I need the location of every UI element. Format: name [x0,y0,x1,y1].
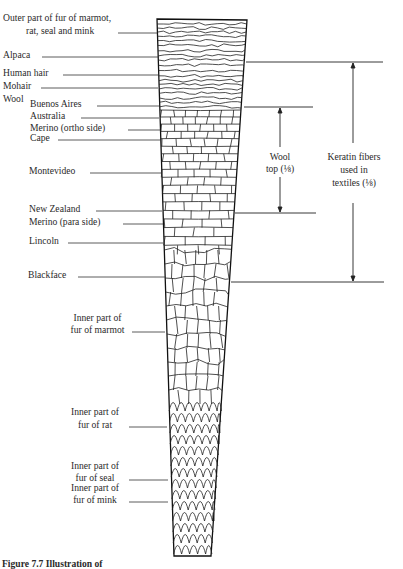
label-new-zealand: New Zealand [29,203,80,214]
label-mohair: Mohair [3,80,31,91]
label-inner-marmot-line2: fur of marmot [60,324,135,335]
label-blackface: Blackface [28,269,66,280]
figure-caption: Figure 7.7 Illustration of [2,558,103,569]
label-cape: Cape [30,132,50,143]
label-australia: Australia [30,110,65,121]
label-wool: Wool [3,93,24,104]
bracket-keratin-line3: textiles (⅛) [318,177,390,188]
label-inner-marmot-line1: Inner part of [60,312,135,323]
label-inner-rat-line2: fur of rat [60,419,130,430]
label-inner-mink-line1: Inner part of [60,482,130,493]
label-montevideo: Montevideo [29,165,75,176]
label-alpaca: Alpaca [3,49,30,60]
bracket-wool-top-line1: Wool [258,151,302,162]
label-outer-fur-line2: rat, seal and mink [26,25,94,36]
label-outer-fur-line1: Outer part of fur of marmot, [3,12,111,23]
bracket-keratin-line2: used in [318,164,390,175]
label-human-hair: Human hair [3,67,49,78]
bracket-wool-top-line2: top (⅛) [258,163,302,174]
label-lincoln: Lincoln [29,235,59,246]
label-inner-seal-line1: Inner part of [60,460,130,471]
bracket-keratin-line1: Keratin fibers [318,151,390,162]
scale-pattern [157,23,247,554]
label-buenos-aires: Buenos Aires [30,98,81,109]
label-inner-mink-line2: fur of mink [60,494,130,505]
label-merino-para: Merino (para side) [29,216,100,227]
label-inner-rat-line1: Inner part of [60,406,130,417]
